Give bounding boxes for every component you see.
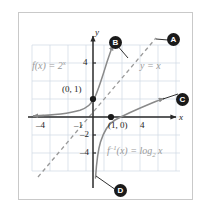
graph-canvas <box>0 0 209 215</box>
identity-label-text: y = x <box>140 60 161 71</box>
inverse-label-subscript: 2 <box>152 151 155 158</box>
exponential-label-exponent: x <box>63 59 66 66</box>
inverse-label-tail: x <box>158 145 162 156</box>
logarithmic-curve <box>96 99 165 179</box>
exponential-function-label: f(x) = 2x <box>32 60 66 71</box>
callout-badge-a[interactable]: A <box>167 33 180 46</box>
exponential-label-main: f(x) = 2 <box>32 60 63 71</box>
exponential-curve <box>34 45 113 116</box>
y-axis-label: y <box>95 28 99 37</box>
callout-leader-d <box>96 176 116 190</box>
identity-line-label: y = x <box>140 61 161 71</box>
callout-badge-d[interactable]: D <box>114 184 127 197</box>
logarithmic-function-label: f–1(x) = log2 x <box>107 145 163 159</box>
point-0-1 <box>90 96 96 102</box>
callout-badge-b[interactable]: B <box>109 36 122 49</box>
callout-badge-c[interactable]: C <box>176 93 189 106</box>
y-tick-label-neg4: –4 <box>80 148 89 157</box>
y-tick-label-neg2: –2 <box>80 130 89 139</box>
x-axis-label: x <box>179 113 183 122</box>
point-label-1-0: (1, 0) <box>108 121 128 130</box>
inverse-label-mid: (x) = log <box>117 145 153 156</box>
x-tick-label-4: 4 <box>140 121 145 130</box>
point-label-0-1: (0, 1) <box>62 85 82 94</box>
x-tick-label-neg4: –4 <box>36 121 45 130</box>
y-tick-label-4: 4 <box>83 58 88 67</box>
inverse-label-superscript: –1 <box>110 144 117 151</box>
figure-container: f(x) = 2x y = x f–1(x) = log2 x (0, 1) (… <box>0 0 209 215</box>
